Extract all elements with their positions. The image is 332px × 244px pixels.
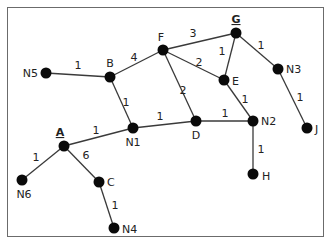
edge-b-n1 — [110, 77, 133, 128]
edge-weight-n2-h: 1 — [258, 143, 265, 156]
edge-g-e — [224, 33, 236, 80]
node-a — [59, 141, 70, 152]
edge-weight-g-n3: 1 — [258, 39, 265, 52]
node-h — [248, 169, 259, 180]
node-label-g: G — [231, 13, 240, 26]
edge-weight-n1-d: 1 — [157, 110, 164, 123]
edge-weight-e-n2: 1 — [242, 93, 249, 106]
edge-weight-a-n1: 1 — [93, 124, 100, 137]
node-n4 — [109, 223, 120, 234]
edge-weight-d-n2: 1 — [222, 107, 229, 120]
node-j — [302, 123, 313, 134]
node-label-c: C — [107, 176, 115, 189]
node-label-n1: N1 — [125, 136, 140, 149]
node-n6 — [17, 175, 28, 186]
edge-weight-n3-j: 1 — [297, 91, 304, 104]
node-e — [219, 75, 230, 86]
edge-weight-g-e: 1 — [219, 45, 226, 58]
edge-weight-b-f: 4 — [131, 51, 138, 64]
node-label-n6: N6 — [16, 188, 31, 201]
node-n3 — [273, 64, 284, 75]
node-n1 — [128, 123, 139, 134]
node-label-f: F — [158, 31, 164, 44]
edge-f-e — [163, 50, 224, 80]
edge-weight-f-g: 3 — [190, 27, 197, 40]
edge-weight-b-n1: 1 — [123, 96, 130, 109]
edge-weight-f-d: 2 — [180, 84, 187, 97]
node-n5 — [41, 68, 52, 79]
edge-n5-b — [46, 73, 110, 77]
node-label-n4: N4 — [122, 223, 137, 236]
node-d — [191, 116, 202, 127]
node-label-n2: N2 — [261, 115, 276, 128]
node-c — [94, 177, 105, 188]
edge-n1-d — [133, 121, 196, 128]
node-f — [158, 45, 169, 56]
node-b — [105, 72, 116, 83]
node-label-d: D — [192, 129, 200, 142]
edge-weight-c-n4: 1 — [112, 199, 119, 212]
node-label-n3: N3 — [286, 63, 301, 76]
edge-a-c — [64, 146, 99, 182]
edge-a-n6 — [22, 146, 64, 180]
node-label-a: A — [56, 126, 65, 139]
edge-weight-f-e: 2 — [196, 56, 203, 69]
node-label-e: E — [232, 75, 239, 88]
node-label-b: B — [106, 57, 114, 70]
edge-weight-n5-b: 1 — [75, 59, 82, 72]
edge-weight-a-n6: 1 — [33, 151, 40, 164]
node-g — [231, 28, 242, 39]
graph-diagram: 14132211111111161N5BFGEN3JN1DN2HAN6CN4 — [0, 0, 332, 244]
node-label-h: H — [262, 170, 270, 183]
node-label-n5: N5 — [23, 67, 38, 80]
edge-weight-a-c: 6 — [83, 149, 90, 162]
node-label-j: J — [314, 123, 318, 136]
node-n2 — [248, 116, 259, 127]
